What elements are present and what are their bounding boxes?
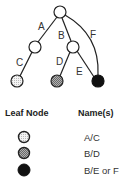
edge-label-a: A [38,21,45,32]
edge-label-f: F [90,29,96,40]
legend-header-leaf-node: Leaf Node [5,108,49,118]
legend-row: B/E or F [0,163,130,179]
leaf-node-d [51,75,63,87]
legend-name: A/C [84,132,100,143]
edge-label-b: B [58,30,65,41]
legend-name: B/E or F [84,165,119,176]
root-node [54,6,66,18]
leaf-node-ef [92,75,104,87]
edge-label-d: D [56,56,63,67]
legend-black-node-icon [17,163,31,177]
internal-node-b [67,41,79,53]
legend-row: A/C [0,130,130,146]
internal-node-a [29,41,41,53]
legend-light-node-icon [17,130,31,144]
edge-label-c: C [16,57,23,68]
edge-label-e: E [76,66,83,77]
tree-diagram: A B F C D E [0,0,130,100]
legend-header-names: Name(s) [78,108,114,118]
legend-gray-node-icon [17,146,31,160]
leaf-node-c [11,75,23,87]
legend-row: B/D [0,146,130,162]
legend-name: B/D [84,148,100,159]
